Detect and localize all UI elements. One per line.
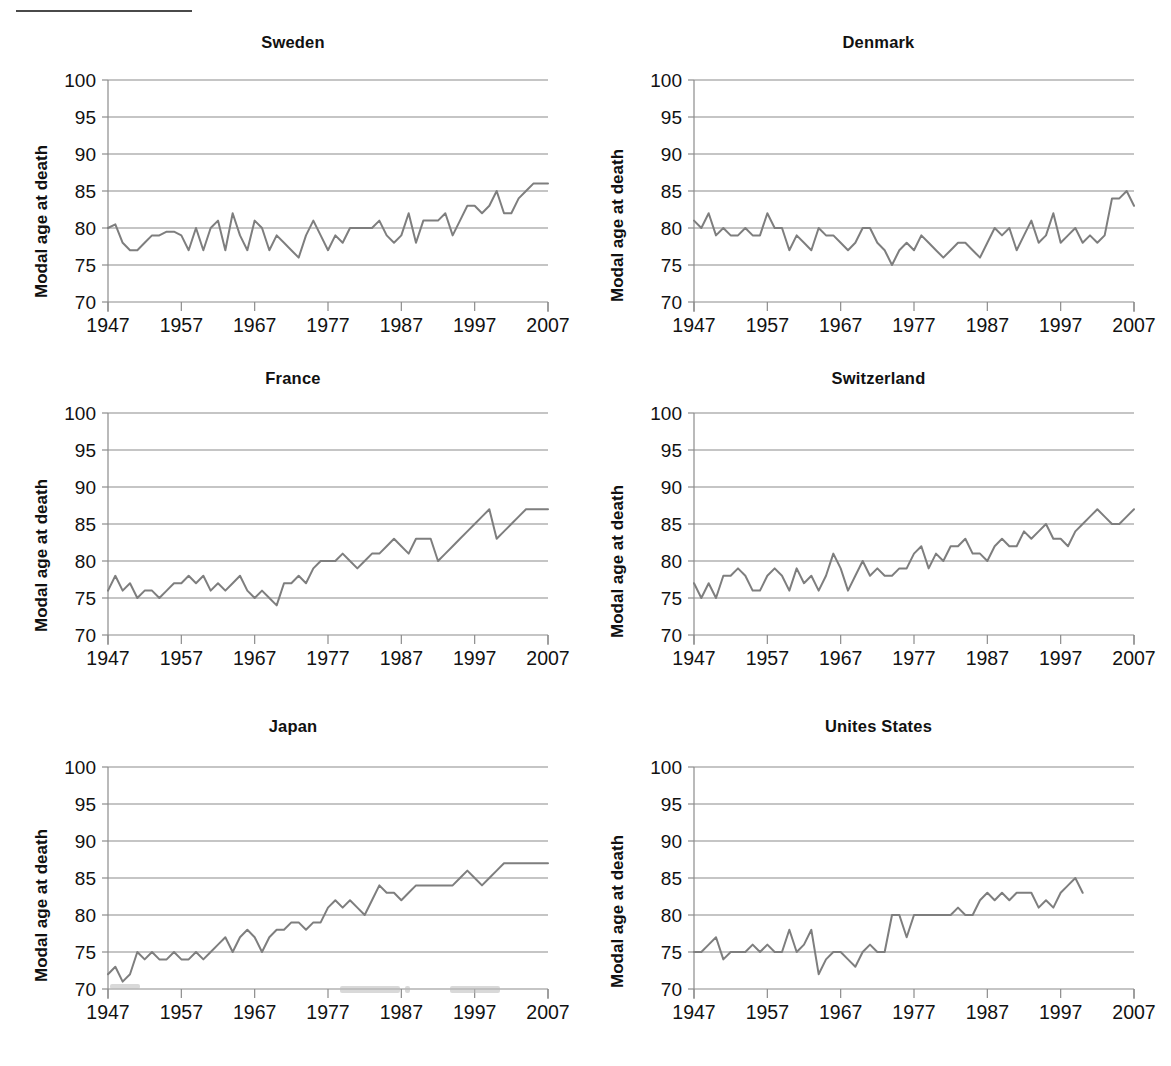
svg-text:70: 70 [75, 979, 96, 1000]
chart-panel-sweden: Sweden Modal age at death 70758085909510… [0, 0, 586, 360]
svg-text:85: 85 [75, 868, 96, 889]
svg-text:75: 75 [75, 942, 96, 963]
svg-text:1947: 1947 [672, 314, 715, 336]
svg-text:1977: 1977 [892, 314, 935, 336]
svg-text:100: 100 [64, 70, 96, 91]
plot-sweden: 7075808590951001947195719671977198719972… [0, 0, 586, 360]
svg-text:1957: 1957 [746, 647, 789, 669]
svg-text:1987: 1987 [380, 314, 423, 336]
svg-text:90: 90 [661, 477, 682, 498]
svg-text:1957: 1957 [160, 1001, 203, 1023]
figure-panel-grid: Sweden Modal age at death 70758085909510… [0, 0, 1171, 1066]
svg-text:1967: 1967 [233, 314, 276, 336]
svg-text:1967: 1967 [819, 314, 862, 336]
svg-text:1967: 1967 [233, 647, 276, 669]
plot-united-states: 7075808590951001947195719671977198719972… [586, 710, 1171, 1066]
svg-text:90: 90 [75, 831, 96, 852]
plot-france: 7075808590951001947195719671977198719972… [0, 360, 586, 710]
svg-text:70: 70 [661, 625, 682, 646]
svg-text:1967: 1967 [233, 1001, 276, 1023]
svg-text:95: 95 [75, 794, 96, 815]
svg-text:2007: 2007 [1112, 647, 1155, 669]
svg-text:85: 85 [661, 868, 682, 889]
chart-panel-denmark: Denmark Modal age at death 7075808590951… [586, 0, 1171, 360]
chart-panel-france: France Modal age at death 70758085909510… [0, 360, 586, 710]
svg-text:1997: 1997 [453, 1001, 496, 1023]
svg-text:90: 90 [75, 477, 96, 498]
svg-text:1977: 1977 [306, 1001, 349, 1023]
svg-text:80: 80 [75, 551, 96, 572]
svg-text:2007: 2007 [1112, 1001, 1155, 1023]
svg-text:1977: 1977 [306, 314, 349, 336]
svg-text:1947: 1947 [86, 1001, 129, 1023]
plot-switzerland: 7075808590951001947195719671977198719972… [586, 360, 1171, 710]
svg-text:2007: 2007 [526, 314, 569, 336]
svg-text:75: 75 [75, 588, 96, 609]
svg-text:100: 100 [650, 757, 682, 778]
svg-text:1997: 1997 [453, 314, 496, 336]
svg-text:1987: 1987 [966, 314, 1009, 336]
svg-text:1987: 1987 [966, 1001, 1009, 1023]
svg-text:80: 80 [661, 218, 682, 239]
svg-text:95: 95 [75, 440, 96, 461]
svg-text:1957: 1957 [746, 1001, 789, 1023]
svg-text:95: 95 [661, 107, 682, 128]
svg-text:75: 75 [661, 255, 682, 276]
svg-text:95: 95 [661, 440, 682, 461]
svg-text:70: 70 [75, 625, 96, 646]
svg-text:1997: 1997 [1039, 1001, 1082, 1023]
svg-text:85: 85 [75, 514, 96, 535]
svg-text:1947: 1947 [86, 647, 129, 669]
svg-text:75: 75 [75, 255, 96, 276]
svg-text:1987: 1987 [380, 647, 423, 669]
svg-text:100: 100 [64, 757, 96, 778]
svg-text:80: 80 [661, 551, 682, 572]
svg-text:1987: 1987 [966, 647, 1009, 669]
svg-text:1957: 1957 [160, 647, 203, 669]
svg-text:95: 95 [661, 794, 682, 815]
svg-text:1957: 1957 [160, 314, 203, 336]
plot-japan: 7075808590951001947195719671977198719972… [0, 710, 586, 1066]
svg-text:85: 85 [661, 514, 682, 535]
svg-text:1997: 1997 [1039, 647, 1082, 669]
svg-text:95: 95 [75, 107, 96, 128]
svg-text:1947: 1947 [672, 1001, 715, 1023]
svg-text:1947: 1947 [86, 314, 129, 336]
svg-text:70: 70 [661, 979, 682, 1000]
svg-text:75: 75 [661, 942, 682, 963]
svg-text:85: 85 [75, 181, 96, 202]
svg-text:1977: 1977 [892, 647, 935, 669]
svg-text:1997: 1997 [1039, 314, 1082, 336]
svg-text:90: 90 [661, 831, 682, 852]
svg-text:80: 80 [75, 905, 96, 926]
chart-panel-united-states: Unites States Modal age at death 7075808… [586, 710, 1171, 1066]
svg-text:90: 90 [75, 144, 96, 165]
svg-text:1967: 1967 [819, 647, 862, 669]
svg-text:2007: 2007 [526, 647, 569, 669]
svg-text:100: 100 [650, 70, 682, 91]
plot-denmark: 7075808590951001947195719671977198719972… [586, 0, 1171, 360]
svg-text:1947: 1947 [672, 647, 715, 669]
svg-text:1987: 1987 [380, 1001, 423, 1023]
svg-text:1997: 1997 [453, 647, 496, 669]
svg-text:1957: 1957 [746, 314, 789, 336]
svg-text:1977: 1977 [892, 1001, 935, 1023]
svg-text:100: 100 [64, 403, 96, 424]
svg-text:75: 75 [661, 588, 682, 609]
svg-text:80: 80 [75, 218, 96, 239]
svg-text:90: 90 [661, 144, 682, 165]
svg-text:70: 70 [661, 292, 682, 313]
chart-panel-japan: Japan Modal age at death 707580859095100… [0, 710, 586, 1066]
chart-panel-switzerland: Switzerland Modal age at death 707580859… [586, 360, 1171, 710]
svg-text:70: 70 [75, 292, 96, 313]
svg-text:1967: 1967 [819, 1001, 862, 1023]
svg-text:1977: 1977 [306, 647, 349, 669]
svg-text:80: 80 [661, 905, 682, 926]
svg-text:2007: 2007 [1112, 314, 1155, 336]
svg-text:100: 100 [650, 403, 682, 424]
svg-text:2007: 2007 [526, 1001, 569, 1023]
svg-text:85: 85 [661, 181, 682, 202]
